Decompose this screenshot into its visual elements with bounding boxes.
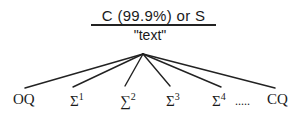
leaf-sigma-4: Σ4 [212,91,226,110]
leaf-cq: CQ [267,91,288,108]
leaf-sigma-2: ∑2 [120,91,136,110]
edge-cq [143,54,275,88]
leaf-sigma-3: Σ3 [166,91,180,110]
leaf-sigma-1: Σ1 [70,91,84,110]
edge-sigma3 [143,54,170,86]
edge-oq [25,54,143,88]
leaf-ellipsis: ..... [235,94,250,109]
leaf-oq: OQ [13,91,35,108]
